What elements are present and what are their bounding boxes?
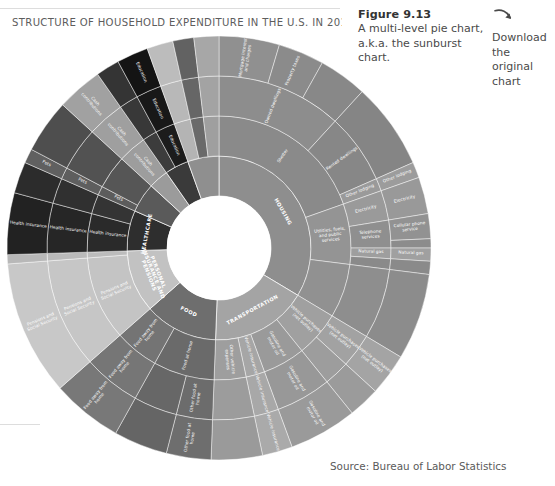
download-curved-arrow-icon	[493, 8, 515, 26]
figure-description-line1: A multi-level pie chart,	[358, 22, 483, 35]
sunburst-slice[interactable]	[391, 239, 431, 248]
download-label: Download the original chart	[492, 31, 555, 89]
figure-description-line2: a.k.a. the sunburst chart.	[358, 37, 462, 65]
chart-title: STRUCTURE OF HOUSEHOLD EXPENDITURE IN TH…	[12, 17, 342, 28]
page-bleed-text	[60, 0, 500, 7]
top-rule	[0, 8, 340, 9]
sunburst-slice-label: Telephoneservices	[358, 228, 382, 240]
sunburst-center-hole	[167, 196, 271, 300]
download-original-chart-link[interactable]: Download the original chart	[492, 8, 555, 89]
sunburst-chart[interactable]: HOUSINGShelterOwned dwellingsMortgage in…	[0, 0, 555, 486]
chart-source-note: Source: Bureau of Labor Statistics	[330, 460, 506, 472]
download-label-line1: Download the	[492, 31, 547, 59]
sunburst-slice[interactable]	[211, 416, 263, 460]
bottom-rule-left	[0, 424, 40, 425]
sunburst-slice-label: Natural gas	[398, 250, 424, 256]
figure-number: Figure 9.13	[358, 8, 488, 21]
download-label-line2: original chart	[492, 60, 533, 88]
figure-description: A multi-level pie chart, a.k.a. the sunb…	[358, 22, 488, 66]
figure-caption-block: Figure 9.13 A multi-level pie chart, a.k…	[358, 8, 488, 66]
sunburst-slice-label: Natural gas	[358, 248, 384, 254]
figure-stage: STRUCTURE OF HOUSEHOLD EXPENDITURE IN TH…	[0, 0, 555, 486]
